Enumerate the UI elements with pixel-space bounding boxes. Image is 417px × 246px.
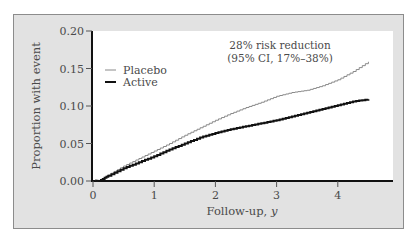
y-axis: 0.000.050.100.150.20 (60, 25, 93, 188)
x-tick-label: 3 (273, 189, 280, 202)
y-tick-label: 0.05 (60, 138, 85, 151)
x-tick-label: 2 (212, 189, 219, 202)
chart-figure: 0.000.050.100.150.20 01234 Placebo Activ… (0, 0, 417, 246)
x-tick-label: 0 (90, 189, 97, 202)
x-tick-label: 4 (334, 189, 341, 202)
annotation-line-1: 28% risk reduction (229, 39, 331, 51)
legend-label-active: Active (122, 76, 158, 89)
x-tick-label: 1 (151, 189, 158, 202)
y-tick-label: 0.10 (60, 100, 85, 113)
y-tick-label: 0.00 (60, 175, 85, 188)
y-tick-label: 0.15 (60, 63, 85, 76)
annotation: 28% risk reduction (95% CI, 17%–38%) (227, 39, 333, 64)
annotation-line-2: (95% CI, 17%–38%) (227, 52, 333, 64)
y-tick-label: 0.20 (60, 25, 85, 38)
x-axis: 01234 (90, 181, 394, 202)
x-axis-title-unit: y (270, 204, 278, 218)
y-axis-title: Proportion with event (29, 42, 43, 170)
x-axis-title: Follow-up, y (207, 204, 278, 218)
x-axis-title-main: Follow-up, (207, 204, 271, 218)
